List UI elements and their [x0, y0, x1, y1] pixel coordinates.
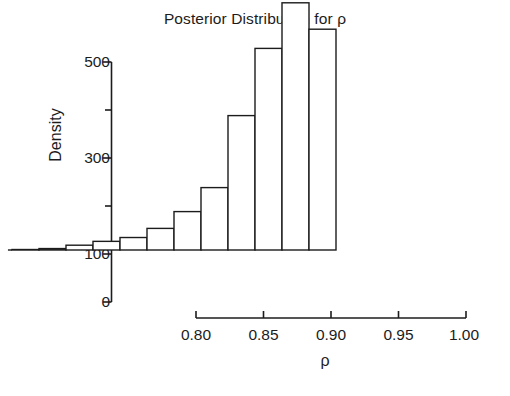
x-axis: [180, 309, 480, 323]
histogram-bar: [12, 250, 39, 251]
x-tick-label-1-00: 1.00: [449, 327, 479, 343]
histogram-bars: [0, 0, 345, 255]
x-tick-label-0-85: 0.85: [248, 327, 278, 343]
x-tick-label-0-95: 0.95: [383, 327, 413, 343]
x-tick-label-group: 0.80 0.85 0.90 0.95 1.00: [0, 327, 510, 351]
histogram-bar: [228, 116, 255, 250]
histogram-bar: [147, 228, 174, 250]
x-axis-title: ρ: [180, 352, 470, 370]
histogram-bar: [282, 3, 309, 250]
histogram-bar: [174, 212, 201, 250]
x-tick-label-0-80: 0.80: [181, 327, 211, 343]
histogram-bar: [201, 188, 228, 250]
x-tick-label-0-90: 0.90: [316, 327, 346, 343]
bar-group: [8, 3, 336, 250]
histogram-bar: [255, 48, 282, 250]
histogram-bar: [120, 238, 147, 250]
histogram-bar: [309, 29, 336, 250]
histogram-figure: Posterior Distribution for ρ Density 500…: [0, 0, 510, 396]
histogram-bar: [93, 241, 120, 250]
histogram-bar: [39, 249, 66, 250]
histogram-bar: [66, 245, 93, 250]
